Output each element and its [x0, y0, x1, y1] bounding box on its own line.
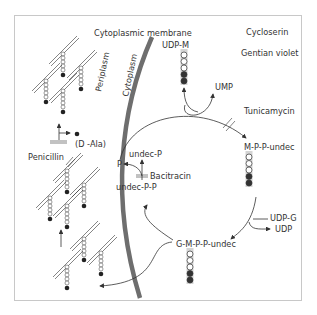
- udp-m-chain: [181, 49, 188, 85]
- peptidoglycan-cluster-top: [32, 36, 97, 114]
- undec-pp-label: undec-P-P: [116, 182, 157, 192]
- membrane-label: Cytoplasmic membrane: [94, 28, 192, 38]
- g-m-pp-undec-label: G-M-P-P-undec: [176, 239, 236, 249]
- m-pp-undec-label: M-P-P-undec: [244, 142, 295, 152]
- undec-p-label: undec-P: [129, 149, 162, 159]
- ump-label: UMP: [215, 82, 233, 92]
- antibiotic-bacitracin: Bacitracin: [150, 171, 191, 181]
- antibiotic-tunicamycin: Tunicamycin: [243, 106, 295, 116]
- udp-g-label: UDP-G: [270, 213, 297, 223]
- antibiotic-gentian-violet: Gentian violet: [241, 48, 299, 58]
- peptidoglycan-diagram: Cytoplasmic membrane Periplasm Cytoplasm…: [0, 0, 317, 315]
- periplasm-label: Periplasm: [93, 51, 111, 92]
- d-ala-label: (D -Ala): [75, 139, 106, 149]
- antibiotic-penicillin: Penicillin: [28, 152, 64, 162]
- udp-label: UDP: [275, 224, 292, 234]
- antibiotic-cycloserin: Cycloserin: [246, 27, 288, 37]
- g-m-pp-undec-chain: [187, 248, 194, 284]
- udp-m-label: UDP-M: [162, 40, 189, 50]
- m-pp-undec-chain: [246, 151, 253, 187]
- peptidoglycan-cluster-middle: [36, 153, 100, 229]
- peptidoglycan-cluster-bottom: [53, 221, 117, 290]
- phosphate-label: P: [117, 159, 122, 169]
